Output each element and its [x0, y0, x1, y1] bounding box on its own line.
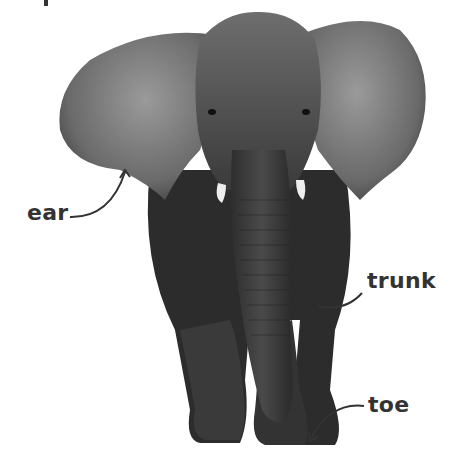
label-toe: toe: [368, 392, 409, 417]
label-trunk: trunk: [367, 268, 436, 293]
left-eye: [208, 109, 216, 115]
label-ear: ear: [27, 200, 69, 225]
ear-pointer: [70, 172, 125, 217]
crop-artifact: [44, 0, 48, 6]
right-eye: [302, 109, 310, 115]
